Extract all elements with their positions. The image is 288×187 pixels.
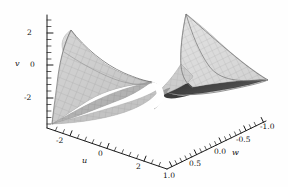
surface-left-lobe [52,30,162,124]
w-tick-label-1: 1.0 [163,172,175,180]
u-axis-title: u [82,157,87,165]
u-tick-label-neg2: -2 [56,137,63,145]
v-axis-minor-ticks [47,20,51,124]
left-lobe-sheet-main-mesh [52,30,151,124]
u-tick-label-2: 2 [136,163,141,171]
w-tick-label-05: 0.5 [189,160,201,168]
w-tick-label-neg1: -1.0 [260,123,274,131]
w-tick-label-neg05: -0.5 [236,136,250,144]
v-tick-label-neg2: -2 [24,94,31,102]
right-lobe-sheet-main-mesh [181,14,268,87]
v-tick-label-0: 0 [30,61,35,69]
u-tick-label-0: 0 [98,150,103,158]
v-axis-title: v [15,60,20,68]
w-tick-label-00: 0.0 [214,148,226,156]
plot-canvas [0,0,288,187]
surface-right-lobe [158,14,268,98]
v-tick-label-2: 2 [27,29,32,37]
w-axis-title: w [232,149,239,157]
surface-plot-figure: 2 0 -2 v -2 0 2 u 1.0 0.5 0.0 -0.5 -1.0 … [0,0,288,187]
